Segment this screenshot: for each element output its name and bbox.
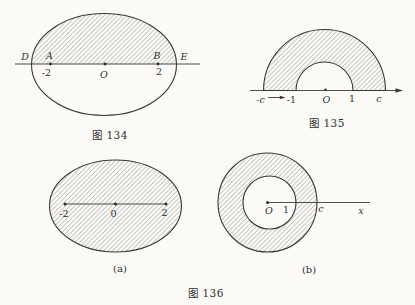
fig134-caption: 图 134 <box>92 129 128 141</box>
fig135-tick-negc: -c <box>256 94 265 105</box>
fig135-caption: 图 135 <box>309 117 345 129</box>
fig134-point-B-dot <box>157 63 160 66</box>
fig136a-caption: (a) <box>113 263 127 274</box>
figure-134: D A B E -2 O 2 图 134 <box>15 14 200 141</box>
fig135-tick-neg1: -1 <box>287 94 296 105</box>
fig134-label-B: B <box>153 50 161 61</box>
fig134-origin-dot <box>104 63 107 66</box>
fig135-tick-pos1: 1 <box>349 93 355 104</box>
figure-136b: O 1 c x (b) <box>218 153 370 275</box>
fig135-x-axis-arrowhead <box>396 88 404 93</box>
fig136a-tick-neg2: -2 <box>59 208 68 219</box>
fig136b-axis-label-x: x <box>358 205 364 216</box>
fig136a-center-dot <box>114 203 117 206</box>
figure-136a: -2 0 2 (a) <box>50 160 182 274</box>
fig136a-tick-pos2: 2 <box>161 207 167 218</box>
fig135-half-annulus <box>264 30 386 91</box>
fig135-tick-posc: c <box>376 93 382 104</box>
figures-canvas: D A B E -2 O 2 图 134 -c -1 O 1 c 图 135 -… <box>0 0 415 305</box>
fig134-tick-neg2: -2 <box>42 67 51 78</box>
fig136a-tick-zero: 0 <box>110 208 116 219</box>
fig136a-left-endpoint-dot <box>64 203 67 206</box>
fig136a-hatched-ellipse <box>50 160 182 252</box>
fig134-label-D: D <box>20 51 29 62</box>
fig134-label-E: E <box>180 51 188 62</box>
fig134-tick-pos2: 2 <box>156 66 162 77</box>
scanned-figure-page: D A B E -2 O 2 图 134 -c -1 O 1 c 图 135 -… <box>0 0 415 305</box>
fig134-label-O: O <box>100 69 108 80</box>
figure-135: -c -1 O 1 c 图 135 <box>250 30 403 129</box>
fig135-origin-dot <box>324 89 326 91</box>
fig135-label-O: O <box>323 94 331 105</box>
fig134-label-A: A <box>45 50 53 61</box>
fig136b-caption: (b) <box>302 264 316 275</box>
fig136b-label-O: O <box>265 205 273 216</box>
fig135-small-arrow-head <box>280 96 286 99</box>
fig136a-right-endpoint-dot <box>165 203 168 206</box>
fig134-point-A-dot <box>49 63 52 66</box>
fig136b-tick-c: c <box>318 203 324 214</box>
fig136b-tick-one: 1 <box>283 204 289 215</box>
fig136-caption: 图 136 <box>188 287 224 299</box>
